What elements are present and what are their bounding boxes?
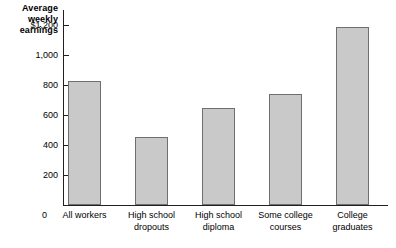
y-axis-title-line-1: Average bbox=[0, 3, 58, 14]
plot-area bbox=[63, 10, 388, 205]
x-axis-category-label-line: graduates bbox=[305, 222, 396, 234]
bar bbox=[68, 81, 101, 205]
y-axis-tick-label: 1,000 bbox=[2, 51, 58, 60]
y-axis-tick-label: 400 bbox=[2, 141, 58, 150]
x-axis-category-label: Collegegraduates bbox=[305, 210, 396, 233]
y-axis-tick-label: 600 bbox=[2, 111, 58, 120]
y-axis-tick-label: 200 bbox=[2, 171, 58, 180]
x-axis-line bbox=[63, 205, 388, 206]
bar bbox=[336, 27, 369, 205]
y-axis-tick-label: $1,200 bbox=[2, 21, 58, 30]
bar-chart: Average weekly earnings 2004006008001,00… bbox=[0, 0, 396, 248]
bar bbox=[269, 94, 302, 205]
bar bbox=[135, 137, 168, 205]
x-axis-category-label-line: College bbox=[305, 210, 396, 222]
bar bbox=[202, 108, 235, 206]
y-axis-tick-label: 800 bbox=[2, 81, 58, 90]
